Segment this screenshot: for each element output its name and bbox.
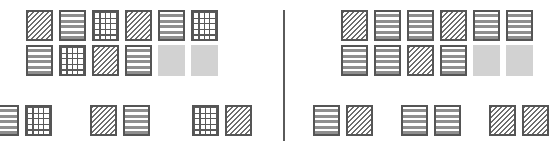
tile-plain [158,45,185,76]
tile-horizontal [434,105,461,136]
tile-horizontal [473,10,500,41]
tile-horizontal [440,45,467,76]
tile-diagonal [225,105,252,136]
tile-plain [191,45,218,76]
tile-plain [473,45,500,76]
left-panel-bottom-group-1 [0,105,52,136]
tile-grid [192,105,219,136]
right-panel [283,0,558,146]
tile-horizontal [123,105,150,136]
tile-horizontal [26,45,53,76]
left-panel [0,0,283,146]
tile-diagonal [440,10,467,41]
tile-diagonal [90,105,117,136]
tile-grid [191,10,218,41]
tile-horizontal [401,105,428,136]
left-panel-upper-row-2 [26,45,218,76]
left-panel-upper-row-1 [26,10,218,41]
tile-diagonal [407,45,434,76]
tile-horizontal [341,45,368,76]
tile-diagonal [341,10,368,41]
tile-horizontal [158,10,185,41]
tile-diagonal [489,105,516,136]
left-panel-bottom-group-3 [192,105,252,136]
tile-horizontal [0,105,19,136]
tile-horizontal [374,10,401,41]
tile-horizontal [506,10,533,41]
tile-horizontal [374,45,401,76]
tile-grid [59,45,86,76]
figure-canvas [0,0,558,146]
right-panel-bottom-group-1 [313,105,373,136]
tile-horizontal [59,10,86,41]
tile-diagonal [92,45,119,76]
tile-diagonal [125,10,152,41]
tile-diagonal [346,105,373,136]
left-panel-bottom-group-2 [90,105,150,136]
right-panel-upper-row-1 [341,10,533,41]
tile-horizontal [313,105,340,136]
tile-grid [25,105,52,136]
tile-diagonal [522,105,549,136]
right-panel-bottom-group-3 [489,105,549,136]
tile-diagonal [26,10,53,41]
tile-horizontal [407,10,434,41]
tile-horizontal [125,45,152,76]
tile-plain [506,45,533,76]
right-panel-upper-row-2 [341,45,533,76]
tile-grid [92,10,119,41]
right-panel-bottom-group-2 [401,105,461,136]
